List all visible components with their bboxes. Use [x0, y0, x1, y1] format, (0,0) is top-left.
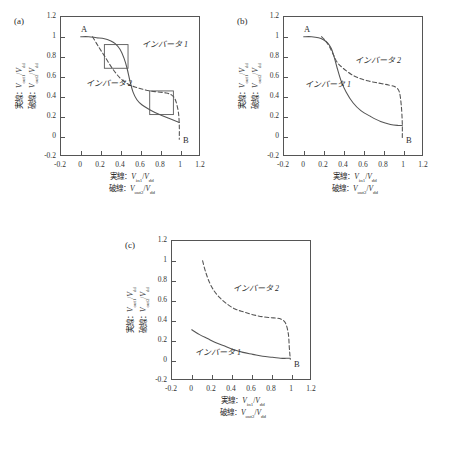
figure-panel-c: (c) -0.2-0.2000.20.20.40.40.60.60.80.811…: [111, 224, 339, 449]
y-tick: [172, 281, 176, 282]
x-tick: [212, 375, 213, 379]
x-tick: [344, 151, 345, 155]
x-tick: [101, 151, 102, 155]
x-tick-label: 0.2: [312, 160, 334, 169]
x-tick: [272, 375, 273, 379]
y-axis-caption: 実線：Vout1/Vdd破線：Vout2/Vdd: [125, 240, 151, 380]
x-tick-label: 0.6: [129, 160, 151, 169]
y-axis-caption: 実線：Vout1/Vdd破線：Vout2/Vdd: [14, 16, 40, 156]
plot-area-c: [171, 240, 311, 380]
x-tick: [121, 151, 122, 155]
y-tick: [61, 117, 65, 118]
y-tick: [284, 77, 288, 78]
point-label-a: A: [81, 24, 87, 34]
x-tick: [232, 375, 233, 379]
x-tick: [304, 151, 305, 155]
x-tick-label: 1.2: [189, 160, 211, 169]
curve-annotation: インバータ 1: [142, 38, 188, 49]
x-tick: [141, 151, 142, 155]
x-tick: [292, 375, 293, 379]
x-tick: [252, 375, 253, 379]
x-tick-label: -0.2: [272, 160, 294, 169]
x-tick-label: 0: [292, 160, 314, 169]
curve-inverter-2: [203, 261, 291, 360]
highlight-square-marker: [104, 45, 128, 69]
curves-c: [172, 241, 310, 379]
x-tick: [404, 151, 405, 155]
curve-annotation: インバータ 2: [86, 77, 132, 88]
x-tick: [181, 151, 182, 155]
x-axis-caption: 実線：Vin1/Vdd破線：Vout2/Vdd: [42, 172, 222, 195]
x-tick-label: 0.4: [109, 160, 131, 169]
x-tick-label: 0.4: [220, 384, 242, 393]
x-axis-caption: 実線：Vin1/Vdd破線：Vout2/Vdd: [265, 172, 445, 195]
y-tick: [284, 137, 288, 138]
y-axis-caption: 実線：Vout1/Vdd破線：Vout2/Vdd: [237, 16, 263, 156]
curve-annotation: インバータ 2: [233, 282, 279, 293]
x-tick: [324, 151, 325, 155]
x-tick-label: 0.2: [200, 384, 222, 393]
y-tick: [284, 57, 288, 58]
y-tick: [172, 321, 176, 322]
x-tick: [384, 151, 385, 155]
y-tick: [172, 301, 176, 302]
x-tick-label: 1.2: [300, 384, 322, 393]
x-tick-label: 0.8: [149, 160, 171, 169]
curve-annotation: インバータ 2: [355, 54, 401, 65]
x-tick-label: 1.2: [412, 160, 434, 169]
y-tick: [61, 57, 65, 58]
x-tick-label: 0.4: [332, 160, 354, 169]
point-label-b: B: [406, 135, 412, 145]
x-tick: [364, 151, 365, 155]
x-tick-label: -0.2: [49, 160, 71, 169]
plot-area-b: [283, 16, 423, 156]
curve-annotation: インバータ 1: [195, 346, 241, 357]
figure-panel-b: (b) -0.2-0.2000.20.20.40.40.60.60.80.811…: [223, 0, 451, 228]
x-tick-label: 1: [392, 160, 414, 169]
y-tick: [61, 97, 65, 98]
x-tick-label: 1: [280, 384, 302, 393]
y-tick: [284, 37, 288, 38]
x-tick-label: 1: [169, 160, 191, 169]
point-label-b: B: [294, 359, 300, 369]
y-tick: [172, 261, 176, 262]
x-tick: [81, 151, 82, 155]
x-tick-label: 0: [69, 160, 91, 169]
figure-panel-a: (a) -0.2-0.2000.20.20.40.40.60.60.80.811…: [0, 0, 228, 228]
x-axis-caption: 実線：Vin1/Vdd破線：Vout2/Vdd: [153, 396, 333, 419]
y-tick: [61, 37, 65, 38]
y-tick: [284, 97, 288, 98]
x-tick-label: -0.2: [160, 384, 182, 393]
x-tick-label: 0.6: [240, 384, 262, 393]
x-tick-label: 0.8: [260, 384, 282, 393]
x-tick: [161, 151, 162, 155]
x-tick: [192, 375, 193, 379]
y-tick: [172, 341, 176, 342]
y-tick: [284, 117, 288, 118]
y-tick: [61, 77, 65, 78]
x-tick-label: 0.2: [89, 160, 111, 169]
x-tick-label: 0.6: [352, 160, 374, 169]
x-tick-label: 0: [180, 384, 202, 393]
point-label-b: B: [183, 135, 189, 145]
y-tick: [61, 137, 65, 138]
x-tick-label: 0.8: [372, 160, 394, 169]
point-label-a: A: [304, 24, 310, 34]
y-tick: [172, 361, 176, 362]
curve-annotation: インバータ 1: [305, 78, 351, 89]
